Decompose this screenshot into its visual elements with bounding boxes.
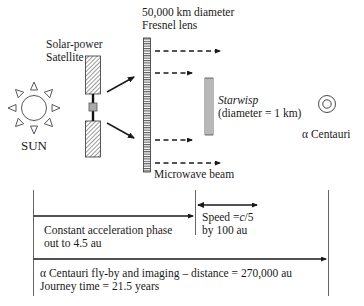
- alpha-centauri-label: α Centauri: [302, 128, 351, 141]
- sun-icon: [8, 82, 60, 134]
- microwave-beam-label: Microwave beam: [154, 168, 234, 181]
- beam-arrow-up: [107, 77, 134, 92]
- sun-label: SUN: [21, 139, 47, 152]
- fresnel-lens-icon: [144, 38, 151, 172]
- acceleration-phase-line1: Constant acceleration phase: [44, 224, 172, 237]
- flyby-label-line1: α Centauri fly-by and imaging – distance…: [40, 267, 292, 280]
- acceleration-phase-line2: out to 4.5 au: [44, 237, 102, 250]
- starwisp-sail-icon: [205, 78, 213, 135]
- starwisp-name-label: Starwisp: [218, 94, 258, 107]
- journey-time-label: Journey time = 21.5 years: [40, 280, 159, 293]
- lens-label-line1: 50,000 km diameter: [142, 6, 234, 19]
- concentric-circles-star-icon: [319, 96, 336, 113]
- solar-panel-satellite-icon: [86, 56, 101, 157]
- starwisp-mission-diagram: 50,000 km diameter Fresnel lens Solar-po…: [0, 0, 364, 306]
- starwisp-diameter-label: (diameter = 1 km): [218, 107, 301, 120]
- speed-label-line2: by 100 au: [202, 224, 247, 237]
- satellite-label-line2: Satellite: [46, 51, 84, 64]
- beam-arrow-down: [107, 123, 134, 138]
- satellite-label-line1: Solar-power: [46, 38, 103, 51]
- speed-label-line1: Speed =c/5: [202, 211, 254, 224]
- lens-label-line2: Fresnel lens: [142, 19, 197, 32]
